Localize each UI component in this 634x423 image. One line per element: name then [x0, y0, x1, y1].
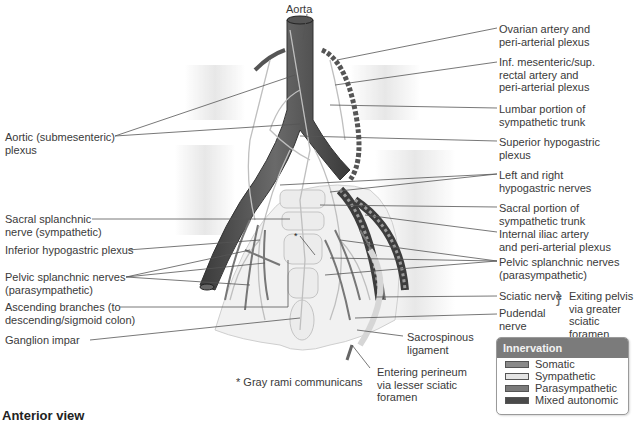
label-sacrospinous: Sacrospinous ligament: [407, 331, 474, 356]
legend-label: Sympathetic: [535, 370, 596, 382]
label-text: (parasympathetic): [499, 269, 619, 282]
label-ganglion-impar: Ganglion impar: [5, 334, 80, 347]
label-text: hypogastric nerves: [499, 182, 591, 195]
label-inferior-hypogastric: Inferior hypogastric plexus: [5, 244, 133, 257]
label-hypogastric-nerves: Left and right hypogastric nerves: [499, 169, 591, 194]
label-text: via lesser sciatic: [377, 379, 467, 392]
label-lumbar-trunk: Lumbar portion of sympathetic trunk: [499, 103, 585, 128]
label-pudendal-nerve: Pudendal nerve: [499, 307, 546, 332]
legend-item-mixed-autonomic: Mixed autonomic: [497, 394, 628, 406]
label-text: Sciatic nerve: [499, 290, 562, 303]
label-text: Superior hypogastric: [499, 136, 600, 149]
label-text: Ganglion impar: [5, 334, 80, 347]
brace-icon: }: [556, 290, 561, 306]
label-text: Internal iliac artery: [499, 228, 611, 241]
label-text: nerve: [499, 320, 546, 333]
label-superior-hypogastric: Superior hypogastric plexus: [499, 136, 600, 161]
label-text: sympathetic trunk: [499, 215, 585, 228]
label-text: nerve (sympathetic): [5, 226, 102, 239]
label-text: Pelvic splanchnic nerves: [499, 256, 619, 269]
swatch-sympathetic-icon: [505, 373, 529, 380]
label-text: peri-arterial plexus: [499, 36, 590, 49]
label-sacral-trunk: Sacral portion of sympathetic trunk: [499, 202, 585, 227]
label-text: peri-arterial plexus: [499, 81, 595, 94]
label-ovarian-artery: Ovarian artery and peri-arterial plexus: [499, 23, 590, 48]
label-text: Sacral portion of: [499, 202, 585, 215]
svg-text:*: *: [294, 231, 298, 241]
figure-caption: Anterior view: [2, 408, 84, 423]
label-text: Lumbar portion of: [499, 103, 585, 116]
label-inf-mesenteric: Inf. mesenteric/sup. rectal artery and p…: [499, 56, 595, 94]
label-text: sciatic: [569, 315, 633, 328]
swatch-mixed-autonomic-icon: [505, 397, 529, 404]
label-ascending-branches: Ascending branches (to descending/sigmoi…: [5, 301, 135, 326]
legend-item-parasympathetic: Parasympathetic: [497, 382, 628, 394]
label-text: Inferior hypogastric plexus: [5, 244, 133, 257]
label-text: Inf. mesenteric/sup.: [499, 56, 595, 69]
swatch-parasympathetic-icon: [505, 385, 529, 392]
label-exiting-pelvis: Exiting pelvis via greater sciatic foram…: [569, 290, 633, 340]
label-sciatic-nerve: Sciatic nerve: [499, 290, 562, 303]
label-text: plexus: [5, 144, 115, 157]
label-pelvic-splanchnic-right: Pelvic splanchnic nerves (parasympatheti…: [499, 256, 619, 281]
footnote-gray-rami: * Gray rami communicans: [236, 376, 363, 389]
label-text: Left and right: [499, 169, 591, 182]
label-internal-iliac: Internal iliac artery and peri-arterial …: [499, 228, 611, 253]
label-text: ligament: [407, 344, 474, 357]
label-aorta: Aorta: [286, 3, 312, 16]
label-text: rectal artery and: [499, 69, 595, 82]
label-aortic-plexus: Aortic (submesenteric) plexus: [5, 131, 115, 156]
legend-item-somatic: Somatic: [497, 358, 628, 370]
legend-label: Mixed autonomic: [535, 394, 618, 406]
legend-title: Innervation: [497, 338, 628, 358]
label-text: Exiting pelvis: [569, 290, 633, 303]
label-text: Aorta: [286, 3, 312, 16]
legend-item-sympathetic: Sympathetic: [497, 370, 628, 382]
label-text: Ascending branches (to: [5, 301, 135, 314]
innervation-legend: Innervation Somatic Sympathetic Parasymp…: [496, 337, 629, 415]
label-text: Entering perineum: [377, 366, 467, 379]
label-text: and peri-arterial plexus: [499, 241, 611, 254]
label-text: Aortic (submesenteric): [5, 131, 115, 144]
label-text: plexus: [499, 149, 600, 162]
label-text: sympathetic trunk: [499, 116, 585, 129]
label-text: * Gray rami communicans: [236, 376, 363, 389]
label-text: foramen: [377, 391, 467, 404]
label-text: Sacral splanchnic: [5, 213, 102, 226]
label-pelvic-splanchnic-left: Pelvic splanchnic nerves (parasympatheti…: [5, 271, 125, 296]
label-text: Ovarian artery and: [499, 23, 590, 36]
label-text: descending/sigmoid colon): [5, 314, 135, 327]
label-sacral-splanchnic: Sacral splanchnic nerve (sympathetic): [5, 213, 102, 238]
label-text: (parasympathetic): [5, 284, 125, 297]
label-text: via greater: [569, 303, 633, 316]
label-text: Pudendal: [499, 307, 546, 320]
label-text: Sacrospinous: [407, 331, 474, 344]
legend-label: Parasympathetic: [535, 382, 617, 394]
legend-label: Somatic: [535, 358, 575, 370]
label-text: Pelvic splanchnic nerves: [5, 271, 125, 284]
label-entering-perineum: Entering perineum via lesser sciatic for…: [377, 366, 467, 404]
swatch-somatic-icon: [505, 361, 529, 368]
